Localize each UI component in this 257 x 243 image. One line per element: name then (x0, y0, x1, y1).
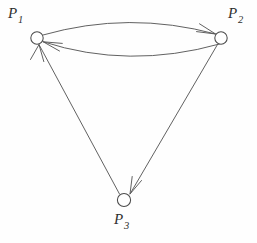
edge-p3-to-p1 (31, 45, 120, 194)
edge-p3-to-p1-path (39, 45, 120, 194)
node-label-p1-letter: P (8, 5, 17, 21)
diagram-canvas: P1 P2 P3 (0, 0, 257, 243)
edge-p2-to-p3 (130, 44, 218, 194)
node-label-p1: P1 (8, 6, 23, 21)
node-p1[interactable] (31, 32, 43, 44)
node-label-p1-subscript: 1 (18, 14, 23, 25)
node-p3[interactable] (117, 193, 130, 206)
graph-svg (0, 0, 257, 243)
node-label-p2: P2 (228, 6, 243, 21)
arrowhead-into-p3 (130, 177, 142, 195)
edge-p2-to-p3-path (130, 44, 218, 194)
node-label-p3-letter: P (114, 211, 123, 227)
edge-p2-to-p1-path (43, 42, 219, 56)
node-label-p2-letter: P (228, 5, 237, 21)
edge-p1-to-p2 (43, 22, 216, 35)
arrowhead-into-p1-lower-left (31, 45, 44, 62)
node-label-p2-subscript: 2 (238, 14, 243, 25)
node-label-p3: P3 (114, 212, 129, 227)
node-p2[interactable] (215, 32, 227, 44)
edge-p2-to-p1 (43, 42, 219, 56)
arrowhead-into-p2-top (197, 24, 216, 34)
edge-p1-to-p2-path (43, 22, 216, 35)
node-label-p3-subscript: 3 (124, 220, 129, 231)
